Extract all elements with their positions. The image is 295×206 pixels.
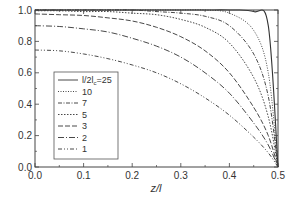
y-tick-label: 1.0 <box>18 5 32 16</box>
legend-label-1: 1 <box>82 144 87 154</box>
y-tick-label: 0.6 <box>18 67 32 78</box>
x-tick-label: 0.1 <box>77 170 91 181</box>
x-tick-labels: 0.00.10.20.30.40.5 <box>28 170 285 181</box>
x-tick-label: 0.2 <box>125 170 139 181</box>
x-tick-label: 0.5 <box>271 170 285 181</box>
y-tick-label: 0.8 <box>18 36 32 47</box>
y-tick-label: 0.2 <box>18 130 32 141</box>
y-tick-label: 0.0 <box>18 162 32 173</box>
legend-label-5: 5 <box>82 110 87 120</box>
y-tick-labels: 0.00.20.40.60.81.0 <box>18 5 32 173</box>
legend-label-10: 10 <box>82 87 92 97</box>
legend-label-3: 3 <box>82 121 87 131</box>
x-tick-label: 0.3 <box>174 170 188 181</box>
legend: l/2lc=251075321 <box>54 72 118 159</box>
legend-label-2: 2 <box>82 133 87 143</box>
legend-label-7: 7 <box>82 98 87 108</box>
chart: 0.00.10.20.30.40.5 0.00.20.40.60.81.0 z/… <box>0 0 295 206</box>
y-tick-label: 0.4 <box>18 99 32 110</box>
legend-label-25: l/2lc=25 <box>82 75 112 86</box>
x-tick-label: 0.4 <box>222 170 236 181</box>
x-axis-label: z/l <box>150 182 163 194</box>
